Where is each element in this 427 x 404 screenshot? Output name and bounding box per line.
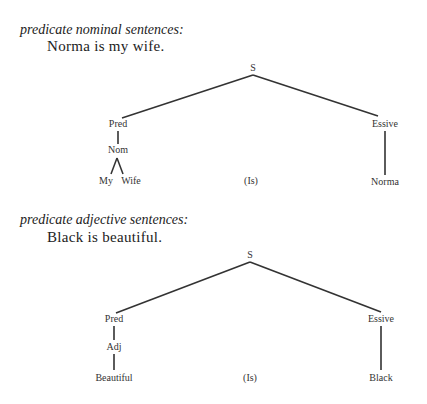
tree-2-edge-s-essive — [250, 262, 381, 312]
tree-1-edge-s-pred — [122, 75, 253, 118]
tree-2-pred-node: Pred — [105, 313, 123, 324]
tree-1-leaf-is: (Is) — [244, 175, 258, 187]
tree-2-edge-s-pred — [116, 262, 250, 313]
tree-1-essive-node: Essive — [372, 118, 399, 129]
tree-2-adj-node: Adj — [107, 341, 122, 352]
tree-1-leaf-my: My — [99, 175, 113, 186]
tree-2-root-node: S — [247, 249, 253, 260]
tree-2-essive-node: Essive — [368, 313, 395, 324]
tree-1-nom-node: Nom — [108, 144, 128, 155]
tree-1-edge-s-essive — [253, 75, 378, 116]
tree-1: S Pred Nom My Wife (Is) Essive Norma — [99, 62, 399, 187]
tree-1-pred-node: Pred — [109, 118, 127, 129]
tree-2: S Pred Adj Beautiful (Is) Essive Black — [95, 249, 394, 384]
tree-2-leaf-is: (Is) — [243, 372, 257, 384]
tree-1-edge-nom-my — [111, 158, 117, 174]
tree-2-leaf-beautiful: Beautiful — [95, 372, 132, 383]
tree-diagrams: S Pred Nom My Wife (Is) Essive Norma S P… — [0, 0, 427, 404]
tree-1-edge-nom-wife — [117, 158, 123, 174]
tree-2-leaf-black: Black — [369, 372, 392, 383]
tree-1-leaf-norma: Norma — [371, 176, 399, 187]
tree-1-root-node: S — [250, 62, 256, 73]
tree-1-leaf-wife: Wife — [121, 175, 141, 186]
